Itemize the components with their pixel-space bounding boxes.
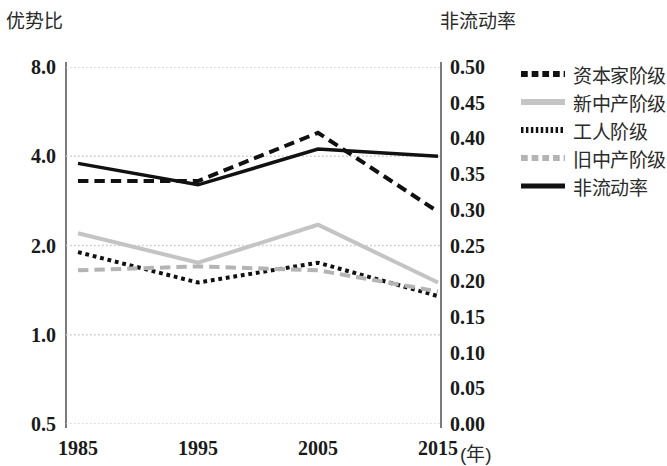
right-axis-tick: 0.25 — [450, 236, 512, 256]
x-axis-tick: 1995 — [158, 438, 238, 458]
x-axis-tick: 2005 — [278, 438, 358, 458]
legend-item[interactable]: 旧中产阶级 — [520, 144, 667, 172]
legend-swatch-old-middle — [520, 151, 566, 165]
right-axis-tick: 0.50 — [450, 57, 512, 77]
left-axis-tick: 8.0 — [4, 57, 56, 77]
plot-area — [66, 67, 440, 424]
plot-svg — [66, 67, 440, 424]
right-axis-title: 非流动率 — [440, 6, 516, 33]
x-axis-unit-label: (年) — [460, 439, 492, 466]
right-axis-tick: 0.00 — [450, 414, 512, 434]
right-axis-tick: 0.30 — [450, 200, 512, 220]
legend-swatch-worker — [520, 123, 566, 137]
right-axis-tick: 0.05 — [450, 378, 512, 398]
legend-item-label: 资本家阶级 — [573, 61, 666, 88]
legend-item[interactable]: 资本家阶级 — [520, 60, 667, 88]
legend-item-label: 旧中产阶级 — [573, 145, 666, 172]
legend-item[interactable]: 非流动率 — [520, 172, 667, 200]
left-axis-tick: 4.0 — [4, 146, 56, 166]
legend-item-label: 非流动率 — [573, 173, 647, 200]
chart-legend: 资本家阶级新中产阶级工人阶级旧中产阶级非流动率 — [520, 60, 667, 200]
left-axis-tick: 0.5 — [4, 414, 56, 434]
legend-swatch-new-middle — [520, 95, 566, 109]
right-axis-tick: 0.35 — [450, 164, 512, 184]
left-axis-tick: 1.0 — [4, 325, 56, 345]
left-axis-title: 优势比 — [6, 6, 63, 33]
right-axis-line — [440, 62, 442, 428]
series-line — [78, 266, 438, 291]
legend-swatch-immobility — [520, 179, 566, 193]
right-axis-tick: 0.15 — [450, 307, 512, 327]
legend-swatch-capitalist — [520, 67, 566, 81]
legend-item-label: 新中产阶级 — [573, 89, 666, 116]
legend-item-label: 工人阶级 — [573, 117, 647, 144]
x-axis-tick: 1985 — [38, 438, 118, 458]
legend-item[interactable]: 工人阶级 — [520, 116, 667, 144]
legend-item[interactable]: 新中产阶级 — [520, 88, 667, 116]
right-axis-tick: 0.20 — [450, 271, 512, 291]
left-axis-tick: 2.0 — [4, 236, 56, 256]
right-axis-tick: 0.40 — [450, 128, 512, 148]
right-axis-tick: 0.45 — [450, 93, 512, 113]
right-axis-tick: 0.10 — [450, 343, 512, 363]
